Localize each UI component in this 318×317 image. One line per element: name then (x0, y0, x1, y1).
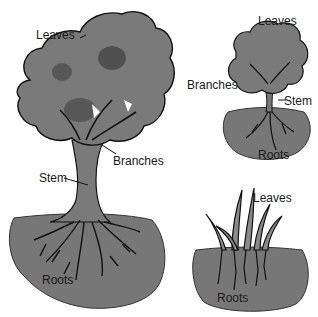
large-tree-stem-label: Stem (39, 172, 67, 184)
grass-roots-label: Roots (217, 292, 248, 304)
large-tree-leaves-label: Leaves (36, 29, 75, 41)
shrub-branches-label: Branches (187, 79, 238, 91)
large-tree-branches-label: Branches (113, 155, 164, 167)
shrub-roots-label: Roots (258, 149, 289, 161)
grass-leaves-label: Leaves (253, 192, 292, 204)
large-tree-roots-label: Roots (42, 274, 73, 286)
grass (193, 188, 309, 311)
shrub-leaves-label: Leaves (258, 15, 297, 27)
grass-soil (193, 247, 309, 311)
shrub-stem-label: Stem (284, 95, 312, 107)
large-tree-soil (9, 214, 164, 309)
shrub-leaves (229, 21, 308, 93)
